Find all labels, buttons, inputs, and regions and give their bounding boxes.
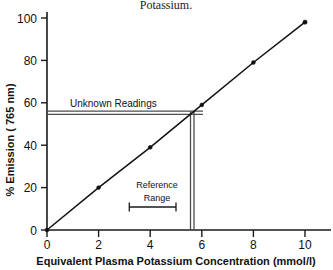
- y-tick-label-0: 0: [30, 224, 37, 238]
- x-axis-ticks: [47, 230, 305, 237]
- x-tick-label-0: 0: [44, 238, 51, 252]
- reference-range-label-line1: Reference: [136, 180, 178, 190]
- y-axis-ticks: [41, 18, 47, 230]
- data-point-0: [45, 228, 49, 232]
- data-point-2: [148, 145, 152, 149]
- reference-range-annotation: Reference Range: [129, 180, 177, 212]
- reference-range-label-line2: Range: [144, 193, 171, 203]
- y-tick-label-40: 40: [24, 139, 38, 153]
- x-tick-label-8: 8: [250, 238, 257, 252]
- x-axis-title: Equivalent Plasma Potassium Concentratio…: [36, 255, 316, 267]
- unknown-readings-marker: Unknown Readings: [47, 98, 203, 114]
- data-point-5: [303, 20, 307, 24]
- chart-figure: Potassium. 0 20 40 60 80 100: [0, 0, 333, 270]
- x-tick-label-6: 6: [198, 238, 205, 252]
- x-tick-label-10: 10: [298, 238, 312, 252]
- data-point-3: [200, 103, 204, 107]
- calibration-curve-chart: Potassium. 0 20 40 60 80 100: [0, 0, 333, 270]
- y-tick-label-60: 60: [24, 96, 38, 110]
- unknown-dropline-marker: [191, 111, 195, 230]
- calibration-line: [47, 22, 305, 230]
- x-axis-tick-labels: 0 2 4 6 8 10: [44, 238, 312, 252]
- y-axis-tick-labels: 0 20 40 60 80 100: [17, 12, 37, 238]
- x-tick-label-4: 4: [147, 238, 154, 252]
- y-tick-label-20: 20: [24, 181, 38, 195]
- y-tick-label-80: 80: [24, 54, 38, 68]
- data-point-4: [252, 61, 256, 65]
- unknown-readings-label: Unknown Readings: [70, 98, 157, 109]
- x-tick-label-2: 2: [95, 238, 102, 252]
- chart-title: Potassium.: [140, 0, 192, 12]
- data-point-1: [97, 186, 101, 190]
- y-tick-label-100: 100: [17, 12, 37, 26]
- y-axis-title: % Emission ( 765 nm): [4, 83, 16, 196]
- axes: [47, 12, 331, 230]
